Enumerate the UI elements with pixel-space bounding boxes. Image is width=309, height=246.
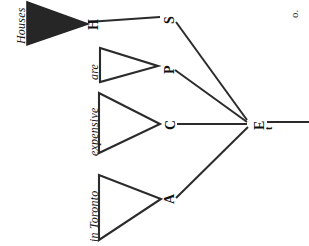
- node-label-s: S: [162, 16, 178, 24]
- phrase-triangle-houses: [27, 2, 88, 45]
- phrase-label-expensive: expensive: [87, 108, 102, 156]
- node-label-c: C: [163, 120, 179, 130]
- phrase-label-are: are: [87, 64, 102, 80]
- node-label-a: A: [162, 194, 178, 204]
- node-label-p: P: [162, 65, 178, 74]
- edge-p-to-et: [175, 70, 247, 122]
- corner-page-mark: o.: [288, 10, 300, 18]
- edge-a-to-et: [176, 127, 248, 198]
- prosodic-tree-figure: Houses are expensive in Toronto H S P C …: [0, 0, 309, 246]
- edge-s-to-et: [176, 22, 247, 120]
- phrase-label-houses: Houses: [14, 7, 29, 44]
- phrase-label-intoronto: in Toronto: [87, 191, 102, 242]
- node-label-et-subscript: t: [263, 127, 274, 130]
- phrase-triangle-are: [100, 48, 158, 82]
- phrase-triangle-intoronto: [99, 175, 161, 240]
- phrase-triangle-expensive: [99, 93, 160, 153]
- node-label-h: H: [86, 19, 102, 30]
